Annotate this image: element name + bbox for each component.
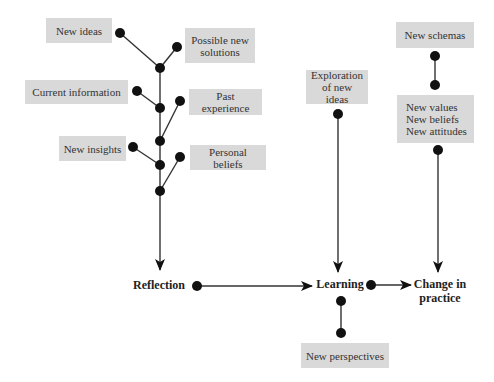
past-experience-text: Past experience (193, 90, 258, 114)
exploration-line-2: of new ideas (310, 81, 364, 105)
stage-reflection: Reflection (130, 278, 188, 292)
node-new-ideas (115, 28, 125, 38)
node-new-values-top (430, 80, 440, 90)
box-new-values-beliefs-attitudes: New values New beliefs New attitudes (397, 95, 474, 143)
stage-learning: Learning (314, 277, 366, 291)
box-possible-new-solutions: Possible new solutions (185, 28, 255, 63)
node-current-information (132, 86, 142, 96)
box-new-ideas: New ideas (46, 18, 112, 43)
node-trunk-3 (155, 136, 165, 146)
new-attitudes-text: New attitudes (406, 125, 467, 137)
box-new-schemas: New schemas (396, 22, 474, 48)
box-new-insights: New insights (59, 136, 126, 161)
box-personal-beliefs: Personal beliefs (190, 145, 266, 170)
new-perspectives-text: New perspectives (306, 350, 384, 362)
new-schemas-text: New schemas (405, 29, 466, 41)
exploration-line-1: Exploration (311, 69, 363, 81)
node-trunk-4 (155, 160, 165, 170)
possible-new-solutions-line-2: solutions (200, 46, 240, 58)
node-personal-beliefs (175, 152, 185, 162)
node-new-perspectives (336, 328, 346, 338)
new-beliefs-text: New beliefs (406, 113, 459, 125)
node-trunk-5 (155, 186, 165, 196)
node-new-insights (128, 142, 138, 152)
change-in-practice-line-1: Change in (412, 277, 468, 291)
possible-new-solutions-line-1: Possible new (191, 34, 249, 46)
node-new-values-bottom (433, 145, 443, 155)
node-reflection (192, 281, 202, 291)
new-ideas-text: New ideas (56, 25, 102, 37)
node-learning-down (336, 296, 346, 306)
stage-change-in-practice: Change in practice (412, 277, 468, 305)
box-new-perspectives: New perspectives (301, 343, 389, 368)
node-trunk-1 (155, 63, 165, 73)
node-new-schemas (430, 51, 440, 61)
node-exploration (333, 109, 343, 119)
node-learning-out (366, 280, 376, 290)
node-possible-solutions (172, 42, 182, 52)
new-values-text: New values (406, 101, 458, 113)
personal-beliefs-text: Personal beliefs (194, 146, 262, 170)
current-information-text: Current information (32, 86, 120, 98)
change-in-practice-line-2: practice (412, 291, 468, 305)
new-insights-text: New insights (64, 143, 122, 155)
box-past-experience: Past experience (189, 89, 262, 115)
node-past-experience (175, 96, 185, 106)
node-trunk-2 (155, 103, 165, 113)
box-current-information: Current information (25, 80, 128, 104)
box-exploration-of-new-ideas: Exploration of new ideas (306, 70, 368, 104)
